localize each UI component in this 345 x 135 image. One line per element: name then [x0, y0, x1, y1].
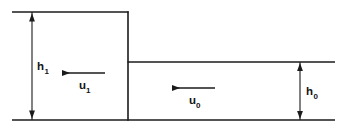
u1-velocity-vector: u 1	[62, 73, 105, 95]
h1-dimension: h 1	[29, 12, 49, 120]
u0-velocity-vector: u 0	[172, 88, 215, 110]
h1-arrowhead-up-icon	[29, 13, 35, 21]
u1-label-subscript: 1	[86, 86, 91, 95]
flow-diagram-figure: h 1 h 0 u 1 u 0	[0, 0, 345, 135]
h0-dimension: h 0	[297, 62, 318, 120]
h1-arrowhead-down-icon	[29, 111, 35, 119]
h1-label: h	[37, 60, 44, 72]
h0-arrowhead-up-icon	[297, 63, 303, 71]
h0-arrowhead-down-icon	[297, 111, 303, 119]
channel-outline	[12, 11, 335, 121]
h0-label: h	[306, 85, 313, 97]
h0-label-subscript: 0	[314, 92, 319, 101]
u0-label-subscript: 0	[196, 101, 201, 110]
flow-diagram-canvas: h 1 h 0 u 1 u 0	[0, 0, 345, 135]
h1-label-subscript: 1	[45, 67, 50, 76]
